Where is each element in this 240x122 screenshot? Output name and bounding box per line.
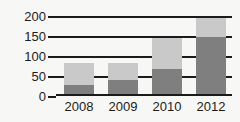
y-tick-mark-150 (48, 36, 56, 38)
plot-area (56, 16, 232, 96)
bar-2008-segment-upper (64, 63, 94, 85)
bar-2010-segment-upper (152, 38, 182, 69)
bar-2010-segment-lower (152, 69, 182, 96)
x-tick-label-2010: 2010 (144, 99, 190, 114)
bar-2012-segment-upper (196, 18, 226, 37)
x-axis-labels: 2008 2009 2010 2012 (56, 99, 232, 119)
bar-2012-segment-lower (196, 37, 226, 96)
y-tick-mark-100 (48, 56, 56, 58)
y-tick-mark-200 (48, 16, 56, 18)
bar-chart: 200 150 100 50 0 (0, 0, 240, 122)
x-tick-label-2008: 2008 (56, 99, 102, 114)
y-tick-label-200: 200 (2, 10, 46, 23)
x-tick-label-2009: 2009 (100, 99, 146, 114)
bar-2009-segment-upper (108, 63, 138, 80)
x-tick-label-2012: 2012 (188, 99, 234, 114)
y-tick-label-100: 100 (2, 50, 46, 63)
y-tick-label-150: 150 (2, 30, 46, 43)
bar-2009 (108, 63, 138, 96)
bar-2010 (152, 38, 182, 96)
y-tick-label-50: 50 (2, 70, 46, 83)
gridline-baseline-0 (56, 94, 232, 96)
y-axis-labels: 200 150 100 50 0 (0, 0, 46, 122)
bar-2008 (64, 63, 94, 96)
y-tick-mark-0 (48, 96, 56, 98)
y-tick-mark-50 (48, 76, 56, 78)
y-tick-label-0: 0 (2, 90, 46, 103)
bar-2012 (196, 18, 226, 96)
